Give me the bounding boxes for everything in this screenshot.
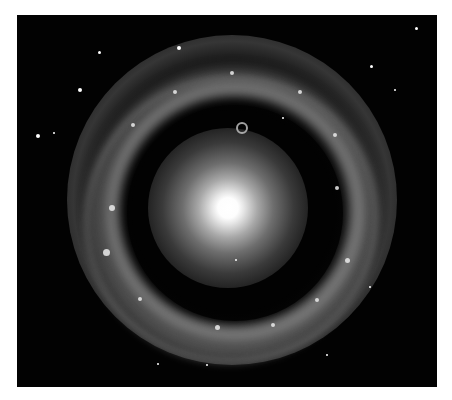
- star-cluster: [271, 323, 275, 327]
- star-cluster: [109, 205, 115, 211]
- star-cluster: [298, 90, 302, 94]
- galaxy-image: [17, 15, 437, 387]
- star: [177, 46, 181, 50]
- star: [415, 27, 418, 30]
- galaxy-core: [148, 128, 308, 288]
- star-cluster: [335, 186, 339, 190]
- star-cluster: [345, 258, 350, 263]
- star-cluster: [230, 71, 234, 75]
- star: [53, 132, 55, 134]
- star: [282, 117, 284, 119]
- star: [394, 89, 396, 91]
- background-ring-galaxy: [236, 122, 248, 134]
- star: [36, 134, 40, 138]
- star-cluster: [333, 133, 337, 137]
- star-cluster: [138, 297, 142, 301]
- star: [235, 259, 237, 261]
- star: [206, 364, 208, 366]
- star-cluster: [215, 325, 220, 330]
- star: [370, 65, 373, 68]
- star: [369, 286, 371, 288]
- star: [78, 88, 82, 92]
- star-cluster: [131, 123, 135, 127]
- star-cluster: [103, 249, 110, 256]
- star: [98, 51, 101, 54]
- star: [157, 363, 159, 365]
- star-cluster: [315, 298, 319, 302]
- star-cluster: [173, 90, 177, 94]
- star: [326, 354, 328, 356]
